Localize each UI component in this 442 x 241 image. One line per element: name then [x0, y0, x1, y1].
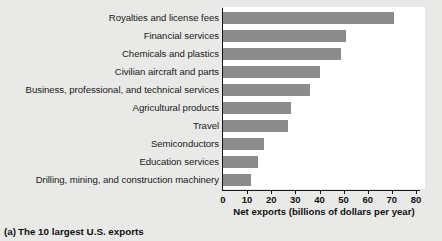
y-axis-line [222, 8, 224, 190]
x-tick-label: 10 [242, 194, 253, 205]
bar [223, 102, 291, 115]
bar [223, 120, 288, 133]
bar-chart: Royalties and license feesFinancial serv… [0, 9, 425, 189]
bar [223, 12, 394, 25]
x-tick-label: 0 [220, 194, 225, 205]
bar [223, 30, 346, 43]
figure-caption: (a)The 10 largest U.S. exports [4, 226, 144, 237]
bar-row: Business, professional, and technical se… [0, 81, 425, 99]
bar-row: Chemicals and plastics [0, 45, 425, 63]
category-label: Agricultural products [133, 99, 219, 117]
bar [223, 66, 320, 79]
caption-letter: (a) [4, 226, 16, 237]
x-tick-label: 70 [387, 194, 398, 205]
category-label: Chemicals and plastics [122, 45, 219, 63]
category-label: Semiconductors [151, 135, 219, 153]
bar [223, 174, 251, 187]
bar [223, 138, 264, 151]
category-label: Drilling, mining, and construction machi… [36, 171, 219, 189]
category-label: Travel [193, 117, 219, 135]
x-tick-label: 20 [266, 194, 277, 205]
caption-text: The 10 largest U.S. exports [18, 226, 144, 237]
x-tick-label: 40 [314, 194, 325, 205]
figure-container: Royalties and license feesFinancial serv… [0, 0, 442, 241]
x-tick-label: 80 [411, 194, 422, 205]
bar-row: Royalties and license fees [0, 9, 425, 27]
bar [223, 48, 341, 61]
x-axis-title: Net exports (billions of dollars per yea… [223, 206, 425, 217]
bar-row: Agricultural products [0, 99, 425, 117]
category-label: Financial services [144, 27, 219, 45]
bar [223, 156, 258, 169]
bar-row: Travel [0, 117, 425, 135]
bar-row: Civilian aircraft and parts [0, 63, 425, 81]
bar-row: Semiconductors [0, 135, 425, 153]
x-tick-label: 60 [362, 194, 373, 205]
bar-row: Education services [0, 153, 425, 171]
bar [223, 84, 310, 97]
x-axis-line [222, 190, 420, 192]
category-label: Royalties and license fees [109, 9, 219, 27]
bar-row: Financial services [0, 27, 425, 45]
x-tick-label: 30 [290, 194, 301, 205]
bar-row: Drilling, mining, and construction machi… [0, 171, 425, 189]
category-label: Education services [139, 153, 219, 171]
category-label: Civilian aircraft and parts [115, 63, 219, 81]
x-tick-label: 50 [338, 194, 349, 205]
category-label: Business, professional, and technical se… [26, 81, 219, 99]
